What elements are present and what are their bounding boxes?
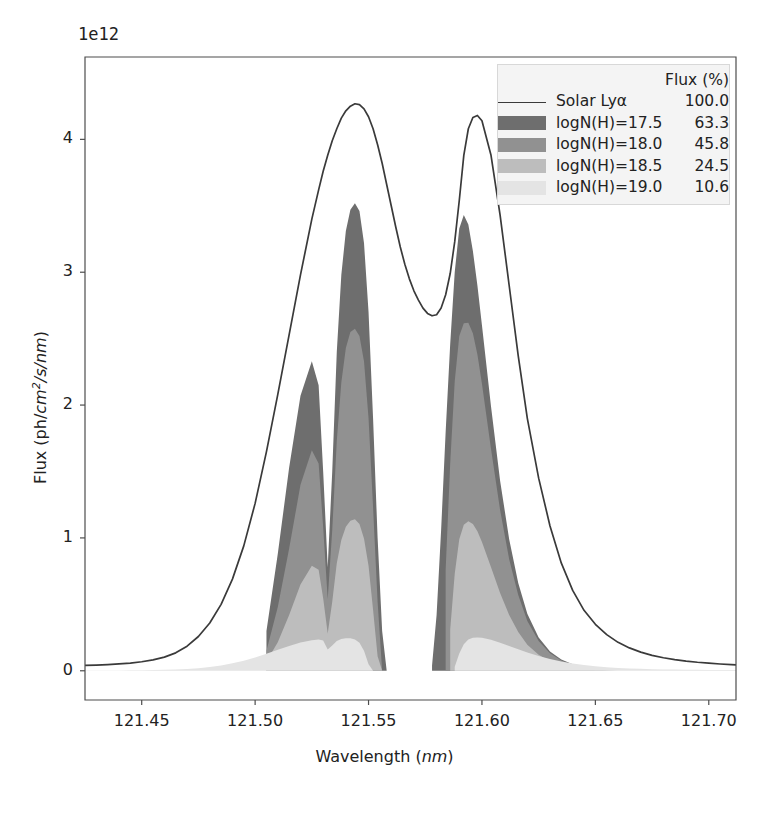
swatch-glyph-icon — [498, 116, 546, 130]
xtick-label-121.60: 121.60 — [437, 711, 527, 730]
legend-item-Solar-Ly-[interactable]: Solar Lyα100.0 — [498, 91, 729, 112]
legend-item-logN-H--17.5[interactable]: logN(H)=17.563.3 — [498, 113, 729, 134]
xtick-label-121.55: 121.55 — [324, 711, 414, 730]
legend-color-swatch — [498, 134, 556, 155]
ytick-label-4: 4 — [23, 128, 73, 147]
legend-header-row: Flux (%) — [498, 70, 729, 91]
legend-color-swatch — [498, 113, 556, 134]
figure-canvas: 1e12 121.45121.50121.55121.60121.65121.7… — [0, 0, 769, 817]
legend-label: logN(H)=17.5 — [556, 113, 664, 134]
area-logN(H)=19.0 — [455, 638, 736, 671]
legend-flux-value: 45.8 — [664, 134, 729, 155]
ytick-label-1: 1 — [23, 527, 73, 546]
legend-header-spacer — [498, 70, 556, 91]
swatch-glyph-icon — [498, 159, 546, 173]
legend-flux-value: 100.0 — [664, 91, 729, 112]
legend-item-logN-H--18.5[interactable]: logN(H)=18.524.5 — [498, 156, 729, 177]
legend-color-swatch — [498, 177, 556, 198]
xtick-label-121.65: 121.65 — [550, 711, 640, 730]
xtick-label-121.70: 121.70 — [664, 711, 754, 730]
legend-table: Flux (%) Solar Lyα100.0logN(H)=17.563.3l… — [498, 70, 729, 198]
legend-item-logN-H--18.0[interactable]: logN(H)=18.045.8 — [498, 134, 729, 155]
ytick-label-0: 0 — [23, 660, 73, 679]
legend-flux-value: 10.6 — [664, 177, 729, 198]
legend-label: logN(H)=18.5 — [556, 156, 664, 177]
legend-line-sample — [498, 91, 556, 112]
legend-label: logN(H)=18.0 — [556, 134, 664, 155]
swatch-glyph-icon — [498, 138, 546, 152]
y-axis-title: Flux (ph/cm2/s/nm) — [30, 331, 50, 484]
legend-item-logN-H--19.0[interactable]: logN(H)=19.010.6 — [498, 177, 729, 198]
swatch-glyph-icon — [498, 181, 546, 195]
x-axis-title: Wavelength (nm) — [0, 747, 769, 766]
area-fill-group — [85, 203, 736, 671]
xtick-label-121.45: 121.45 — [97, 711, 187, 730]
line-glyph-icon — [498, 102, 546, 103]
legend-box[interactable]: Flux (%) Solar Lyα100.0logN(H)=17.563.3l… — [497, 64, 730, 205]
legend-color-swatch — [498, 156, 556, 177]
legend-header-flux: Flux (%) — [664, 70, 729, 91]
legend-flux-value: 24.5 — [664, 156, 729, 177]
ytick-label-3: 3 — [23, 261, 73, 280]
legend-flux-value: 63.3 — [664, 113, 729, 134]
legend-header-spacer2 — [556, 70, 664, 91]
legend-label: logN(H)=19.0 — [556, 177, 664, 198]
xtick-label-121.50: 121.50 — [210, 711, 300, 730]
legend-label: Solar Lyα — [556, 91, 664, 112]
